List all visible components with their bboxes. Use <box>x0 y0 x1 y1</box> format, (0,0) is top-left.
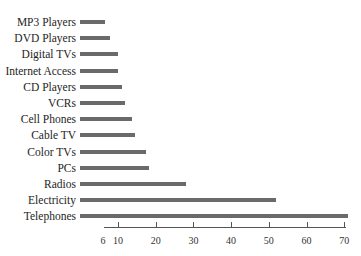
category-label: Electricity <box>28 193 76 207</box>
category-label: Digital TVs <box>22 47 76 61</box>
x-tick <box>193 222 194 228</box>
category-label: VCRs <box>48 96 76 110</box>
category-label: Radios <box>44 177 76 191</box>
x-tick-label: 50 <box>264 235 274 246</box>
bar <box>80 182 186 186</box>
category-label: DVD Players <box>14 31 76 45</box>
category-label: Color TVs <box>27 145 76 159</box>
bar <box>80 85 121 89</box>
category-label: MP3 Players <box>17 15 76 29</box>
x-tick-label: 70 <box>339 235 349 246</box>
category-label: Telephones <box>24 209 76 223</box>
x-tick <box>156 222 157 228</box>
x-tick <box>307 222 308 228</box>
x-tick <box>269 222 270 228</box>
x-tick <box>231 222 232 228</box>
x-tick-label: 6 <box>100 235 105 246</box>
category-label: Cell Phones <box>21 112 76 126</box>
bar <box>80 36 109 40</box>
x-tick-label: 10 <box>113 235 123 246</box>
bar <box>80 52 118 56</box>
x-tick <box>344 222 345 228</box>
x-axis-line <box>104 227 346 228</box>
bar <box>80 198 276 202</box>
category-label: PCs <box>57 161 76 175</box>
bar <box>80 20 105 24</box>
category-label: Cable TV <box>31 128 76 142</box>
x-tick-label: 30 <box>188 235 198 246</box>
x-tick-label: 20 <box>151 235 161 246</box>
bar <box>80 69 118 73</box>
category-label: Internet Access <box>5 64 76 78</box>
bar-chart: MP3 PlayersDVD PlayersDigital TVsInterne… <box>0 0 361 256</box>
x-tick <box>118 222 119 228</box>
bar <box>80 214 348 218</box>
bar <box>80 166 149 170</box>
bar <box>80 150 146 154</box>
category-label: CD Players <box>23 80 76 94</box>
bar <box>80 117 132 121</box>
x-tick-label: 40 <box>226 235 236 246</box>
bar <box>80 101 125 105</box>
bar <box>80 133 135 137</box>
x-tick-label: 60 <box>302 235 312 246</box>
